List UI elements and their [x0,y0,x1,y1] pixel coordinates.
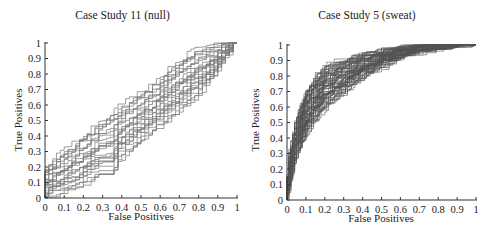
y-tick-label: 0.7 [28,84,41,95]
chart-panel-sweat: Case Study 5 (sweat) 00.10.20.30.40.50.6… [245,0,489,241]
y-tick-label: 0 [278,195,283,206]
roc-curves [287,45,476,200]
roc-curves [45,43,237,198]
y-tick-label: 0 [36,193,41,204]
x-tick-label: 1 [234,202,239,213]
y-tick-label: 0.3 [28,146,41,157]
y-tick-label: 0.4 [270,133,284,144]
roc-plot-sweat: 00.10.20.30.40.50.60.70.80.9100.10.20.30… [245,0,489,241]
y-tick-label: 1 [278,40,283,51]
y-tick-label: 0.2 [28,162,41,173]
x-axis-label: False Positives [331,212,431,224]
y-tick-label: 0.9 [28,53,41,64]
x-tick-label: 1 [473,204,478,215]
x-axis-label: False Positives [91,210,191,222]
y-tick-label: 1 [36,38,41,49]
y-tick-label: 0.8 [270,71,283,82]
y-tick-label: 0.5 [28,115,41,126]
chart-panel-null: Case Study 11 (null) 00.10.20.30.40.50.6… [0,0,245,241]
y-tick-label: 0.6 [270,102,283,113]
y-axis-label: True Positives [249,80,261,160]
x-tick-label: 0.9 [211,202,224,213]
x-tick-label: 0.1 [58,202,71,213]
y-tick-label: 0.7 [270,86,283,97]
roc-plot-null: 00.10.20.30.40.50.60.70.80.9100.10.20.30… [0,0,245,241]
y-tick-label: 0.4 [28,131,42,142]
y-tick-label: 0.1 [28,177,41,188]
y-tick-label: 0.8 [28,69,41,80]
x-tick-label: 0.8 [192,202,205,213]
y-tick-label: 0.6 [28,100,41,111]
x-tick-label: 0 [42,202,47,213]
x-tick-label: 0.2 [77,202,90,213]
x-tick-label: 0.2 [318,204,331,215]
x-tick-label: 0 [284,204,289,215]
x-tick-label: 0.1 [299,204,312,215]
y-tick-label: 0.1 [270,179,283,190]
y-tick-label: 0.2 [270,164,283,175]
x-tick-label: 0.9 [451,204,464,215]
y-tick-label: 0.3 [270,148,283,159]
y-tick-label: 0.5 [270,117,283,128]
y-axis-label: True Positives [12,80,24,160]
y-tick-label: 0.9 [270,55,283,66]
x-tick-label: 0.8 [432,204,445,215]
